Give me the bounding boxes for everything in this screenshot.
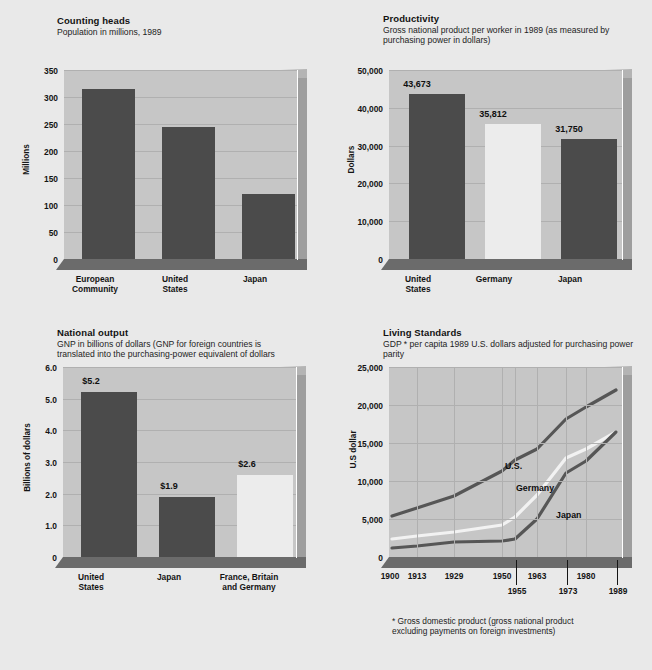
footnote-line-2: excluding payments on foreign investment… xyxy=(392,626,642,636)
barvalue-united-states: $5.2 xyxy=(53,376,129,386)
bar-france-britain-germany xyxy=(237,475,293,557)
plot-side-3d xyxy=(297,375,306,558)
living-standards-ylabel: U.S dollar xyxy=(349,419,358,481)
xlabel-japan: Japan xyxy=(215,274,295,284)
ytick: 50,000 xyxy=(326,66,383,76)
infographic-page: Counting heads Population in millions, 1… xyxy=(0,0,652,670)
productivity-ylabel: Dollars xyxy=(347,130,356,190)
barvalue-france-britain-germany: $2.6 xyxy=(209,459,285,469)
xtick-1989: 1989 xyxy=(600,586,636,596)
xlabel-japan: Japan xyxy=(530,274,610,284)
xlabel-germany: Germany xyxy=(454,274,534,284)
plot-base-3d xyxy=(56,259,307,270)
plot-base-3d xyxy=(381,557,632,568)
ytick: 0 xyxy=(0,553,57,563)
counting-heads-plot: 350 300 250 200 150 100 50 0 Millions Eu… xyxy=(0,0,326,320)
bar-united-states xyxy=(81,392,137,557)
ytick: 350 xyxy=(0,66,58,76)
series-label-us: U.S. xyxy=(505,461,522,471)
series-germany-line xyxy=(392,432,616,539)
tick-leader-1973 xyxy=(567,560,568,585)
bar-japan xyxy=(159,497,215,557)
xtick-1929: 1929 xyxy=(436,571,472,581)
ytick: 20,000 xyxy=(326,401,383,411)
barvalue-japan: 31,750 xyxy=(533,124,605,134)
xtick-1980: 1980 xyxy=(568,571,604,581)
xlabel-united-states: United States xyxy=(51,572,131,592)
plot-side-3d xyxy=(298,78,307,260)
chart-counting-heads: Counting heads Population in millions, 1… xyxy=(0,0,326,320)
plot-face xyxy=(389,70,623,259)
chart-living-standards: Living Standards GDP * per capita 1989 U… xyxy=(326,320,652,670)
plot-side-3d xyxy=(623,78,632,260)
xtick-1913: 1913 xyxy=(399,571,435,581)
ytick: 0 xyxy=(326,255,383,265)
xlabel-france-britain-germany: France, Britain and Germany xyxy=(197,572,301,592)
bar-european-community xyxy=(82,89,135,259)
ytick: 25,000 xyxy=(326,363,383,373)
ytick: 5.0 xyxy=(0,395,57,405)
xlabel-european-community: European Community xyxy=(55,274,135,294)
xtick-1950: 1950 xyxy=(484,571,520,581)
xlabel-united-states: United States xyxy=(378,274,458,294)
chart-productivity: Productivity Gross national product per … xyxy=(326,0,652,320)
series-label-germany: Germany xyxy=(516,483,554,493)
living-standards-plot: U.S. Germany Japan 25,000 20,000 15,000 … xyxy=(326,320,652,670)
xtick-1955: 1955 xyxy=(499,586,535,596)
xtick-1963: 1963 xyxy=(519,571,555,581)
ytick: 40,000 xyxy=(326,104,383,114)
national-output-ylabel: Billions of dollars xyxy=(23,415,32,501)
ytick: 10,000 xyxy=(326,217,383,227)
counting-heads-ylabel: Millions xyxy=(22,130,31,190)
series-us-line xyxy=(392,390,616,516)
ytick: 1.0 xyxy=(0,521,57,531)
chart-national-output: National output GNP in billions of dolla… xyxy=(0,320,326,670)
national-output-plot: $5.2 $1.9 $2.6 6.0 5.0 4.0 3.0 2.0 1.0 0… xyxy=(0,320,326,670)
tick-leader-1955 xyxy=(516,560,517,585)
xtick-1973: 1973 xyxy=(550,586,586,596)
ytick: 300 xyxy=(0,93,58,103)
bar-united-states xyxy=(162,127,215,259)
plot-base-3d xyxy=(381,259,632,270)
series-label-japan: Japan xyxy=(556,510,581,520)
bar-japan xyxy=(561,139,617,259)
bar-germany xyxy=(485,124,541,259)
ytick: 50 xyxy=(0,228,58,238)
barvalue-japan: $1.9 xyxy=(131,481,207,491)
ytick: 250 xyxy=(0,120,58,130)
bar-japan xyxy=(242,194,295,259)
ytick: 5,000 xyxy=(326,515,383,525)
ytick: 0 xyxy=(326,553,383,563)
tick-leader-1989 xyxy=(617,560,618,585)
plot-face xyxy=(64,70,298,259)
barvalue-united-states: 43,673 xyxy=(381,79,453,89)
productivity-plot: 43,673 35,812 31,750 50,000 40,000 30,00… xyxy=(326,0,652,320)
ytick: 6.0 xyxy=(0,363,57,373)
ytick: 100 xyxy=(0,201,58,211)
ytick: 0 xyxy=(0,255,58,265)
plot-base-3d xyxy=(55,557,306,568)
footnote-line-1: * Gross domestic product (gross national… xyxy=(392,616,642,626)
plot-side-3d xyxy=(623,375,632,558)
barvalue-germany: 35,812 xyxy=(457,109,529,119)
xlabel-united-states: United States xyxy=(135,274,215,294)
living-standards-footnote: * Gross domestic product (gross national… xyxy=(392,616,642,637)
